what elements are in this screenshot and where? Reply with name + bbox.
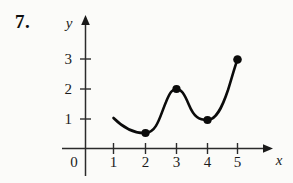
x-tick-label-5: 5: [234, 154, 242, 170]
graph-plot: 3 2 1 0 1 2 3 4 5 y x: [0, 0, 293, 183]
y-axis-label: y: [64, 15, 73, 31]
function-curve: [114, 60, 238, 134]
x-tick-label-3: 3: [173, 154, 181, 170]
x-axis-arrow-icon: [263, 144, 273, 153]
x-tick-label-2: 2: [142, 154, 150, 170]
data-point-2-0.5: [141, 129, 149, 137]
data-point-5-3: [233, 55, 242, 64]
y-tick-label-3: 3: [65, 51, 73, 67]
figure-container: 7. 3 2 1 0 1 2 3 4 5 y x: [0, 0, 293, 183]
y-tick-label-2: 2: [65, 81, 73, 97]
y-axis-arrow-icon: [81, 15, 90, 25]
y-tick-label-1: 1: [65, 111, 73, 127]
origin-label: 0: [70, 154, 78, 170]
x-tick-label-4: 4: [204, 154, 212, 170]
data-point-4-1: [203, 116, 211, 124]
x-axis-label: x: [275, 152, 283, 168]
data-point-3-2: [172, 85, 180, 93]
x-tick-label-1: 1: [110, 154, 118, 170]
